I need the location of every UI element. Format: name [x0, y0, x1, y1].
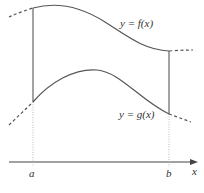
f-curve-dashed-right	[169, 50, 193, 51]
g-curve-dashed-right	[169, 114, 191, 122]
bound-b-label: b	[166, 167, 172, 179]
region-between-curves-diagram: y = f(x) y = g(x) a b x	[0, 0, 204, 193]
g-curve-dashed-left	[9, 102, 33, 125]
bound-a-label: a	[29, 167, 35, 179]
g-curve-label: y = g(x)	[118, 108, 155, 121]
f-curve-dashed-left	[9, 8, 33, 17]
f-curve-label: y = f(x)	[119, 17, 153, 30]
x-axis-label: x	[191, 165, 197, 177]
